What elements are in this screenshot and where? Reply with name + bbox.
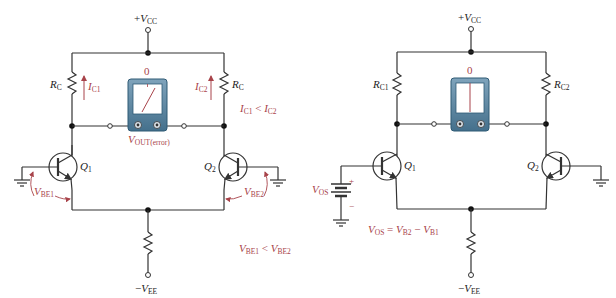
label-vbe2: VBE2 [244, 185, 264, 199]
label-q2-right: Q2 [527, 159, 539, 173]
label-q2-left: Q2 [204, 160, 216, 174]
voltmeter-right [451, 78, 489, 131]
transistor-q1-right [331, 152, 401, 226]
meter-zero-right: 0 [467, 64, 473, 76]
label-ic1: IC1 [87, 80, 101, 94]
resistor-re-left [144, 232, 152, 254]
label-vee-left: −VEE [135, 282, 158, 296]
relation-vos: VOS = VB2 − VB1 [368, 223, 439, 237]
transistor-q1-left [14, 145, 77, 190]
label-q1-right: Q1 [404, 159, 416, 173]
resistor-re-right [467, 232, 475, 254]
transistor-q2-left [219, 153, 286, 190]
vcc-terminal-right [469, 27, 474, 32]
label-q1-left: Q1 [80, 160, 92, 174]
relation-vbe: VBE1 < VBE2 [239, 242, 291, 256]
label-rc-left: RC [49, 78, 62, 92]
battery-vos [331, 184, 351, 196]
label-rc2: RC2 [553, 78, 570, 92]
label-vout-error: VOUT(error) [128, 133, 170, 147]
vee-terminal-right [469, 273, 474, 278]
battery-plus: + [349, 176, 354, 186]
vee-terminal-left [146, 273, 151, 278]
vcc-terminal-left [146, 28, 151, 33]
relation-ic: IC1 < IC2 [239, 102, 277, 116]
label-vbe1: VBE1 [34, 185, 54, 199]
resistor-rc2 [542, 73, 550, 95]
label-vcc-left: +VCC [134, 12, 157, 26]
resistor-rc1 [393, 73, 401, 95]
transistor-q2-right [542, 152, 609, 209]
label-vos: VOS [312, 183, 328, 197]
right-circuit: +VCC −VEE RC1 RC2 0 Q1 Q2 VOS + − VOS = … [312, 11, 609, 296]
label-rc1: RC1 [372, 78, 389, 92]
meter-zero-left: 0 [144, 65, 150, 77]
label-vee-right: −VEE [458, 282, 481, 296]
label-vcc-right: +VCC [458, 11, 481, 25]
label-rc-right: RC [231, 78, 244, 92]
diff-amp-diagrams: +VCC −VEE RC RC IC1 IC2 0 VOUT(error) Q1… [0, 0, 616, 298]
battery-minus: − [349, 201, 354, 211]
resistor-rc-left [68, 72, 76, 94]
resistor-rc-right [220, 72, 228, 94]
label-ic2: IC2 [194, 80, 208, 94]
left-circuit: +VCC −VEE RC RC IC1 IC2 0 VOUT(error) Q1… [14, 12, 291, 296]
voltmeter-left [128, 79, 167, 131]
